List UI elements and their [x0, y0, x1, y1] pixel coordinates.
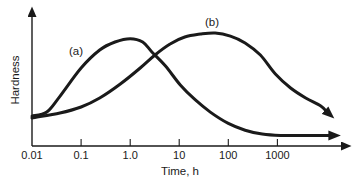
- x-axis-title: Time, h: [161, 165, 199, 177]
- y-axis-title: Hardness: [9, 55, 21, 104]
- x-axis-tick-label: 10: [173, 149, 185, 161]
- x-axis-tick-label: 1000: [265, 149, 289, 161]
- x-axis-tick-label: 1.0: [123, 149, 138, 161]
- curve-b-label: (b): [205, 16, 219, 28]
- hardness-vs-time-figure: 0.010.11.0101001000 Time, h Hardness (a)…: [0, 0, 361, 182]
- x-axis-tick-label: 100: [219, 149, 237, 161]
- x-axis-tick-labels: 0.010.11.0101001000: [21, 149, 289, 161]
- chart-svg: 0.010.11.0101001000 Time, h Hardness (a)…: [0, 0, 361, 182]
- x-axis-tick-label: 0.1: [73, 149, 88, 161]
- x-axis-ticks: [81, 139, 277, 146]
- x-axis-tick-label: 0.01: [21, 149, 42, 161]
- curve-a-label: (a): [69, 45, 83, 57]
